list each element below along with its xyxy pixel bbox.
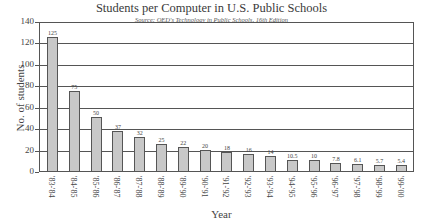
x-tick-label: '97-'98 xyxy=(352,176,362,206)
x-tick-label: '85-'86 xyxy=(91,176,101,206)
x-tick-text: '98-'99 xyxy=(374,176,383,198)
bar-value-label: 14 xyxy=(259,149,283,155)
x-tick-label: '91-'92 xyxy=(221,176,231,206)
x-tick-label: '87-'88 xyxy=(134,176,144,206)
x-tick-label: '93-'94 xyxy=(265,176,275,206)
x-tick-text: '92-'93 xyxy=(243,176,252,198)
gridline xyxy=(40,86,413,87)
x-tick-text: '90-'91 xyxy=(200,176,209,198)
x-tick-label: '96-'97 xyxy=(330,176,340,206)
x-tick-label: '89-'90 xyxy=(178,176,188,206)
x-tick-text: '97-'98 xyxy=(352,176,361,198)
y-tick-label: 20 xyxy=(0,145,34,155)
x-tick-label: '99-'00 xyxy=(396,176,406,206)
y-tick-label: 120 xyxy=(0,37,34,47)
bar xyxy=(200,150,211,171)
x-tick-text: '89-'90 xyxy=(178,176,187,198)
x-tick-text: '86-'87 xyxy=(112,176,121,198)
bar xyxy=(330,163,341,171)
gridline xyxy=(40,108,413,109)
y-tick-label: 40 xyxy=(0,123,34,133)
plot-area: 1257550373225222018161410.5107.86.15.75.… xyxy=(39,22,414,172)
y-tick-mark xyxy=(35,172,39,173)
y-tick-label: 140 xyxy=(0,16,34,26)
bar xyxy=(309,160,320,171)
bar-value-label: 25 xyxy=(150,137,174,143)
bar xyxy=(134,137,145,171)
bar xyxy=(91,117,102,171)
x-tick-text: '88-'89 xyxy=(156,176,165,198)
bar-value-label: 7.8 xyxy=(324,156,348,162)
bar xyxy=(221,152,232,171)
x-tick-text: '91-'92 xyxy=(221,176,230,198)
bar-value-label: 18 xyxy=(215,145,239,151)
bar-value-label: 75 xyxy=(62,84,86,90)
x-tick-text: '94-'95 xyxy=(287,176,296,198)
x-tick-text: '99-'00 xyxy=(396,176,405,198)
y-tick-label: 80 xyxy=(0,80,34,90)
bar-value-label: 32 xyxy=(128,130,152,136)
x-tick-label: '86-'87 xyxy=(112,176,122,206)
x-tick-text: '85-'86 xyxy=(91,176,100,198)
x-tick-label: '90-'91 xyxy=(200,176,210,206)
chart-title: Students per Computer in U.S. Public Sch… xyxy=(0,1,423,16)
bar-value-label: 5.7 xyxy=(368,158,392,164)
x-axis-label: Year xyxy=(0,208,423,220)
y-tick-label: 60 xyxy=(0,102,34,112)
x-tick-label: '94-'95 xyxy=(287,176,297,206)
bar-value-label: 125 xyxy=(41,30,65,36)
bar xyxy=(156,144,167,171)
bar xyxy=(69,91,80,171)
bar-value-label: 10.5 xyxy=(280,153,304,159)
bar-value-label: 6.1 xyxy=(346,157,370,163)
bar-value-label: 22 xyxy=(171,140,195,146)
bar xyxy=(178,147,189,171)
y-tick-label: 0 xyxy=(0,166,34,176)
x-tick-label: '88-'89 xyxy=(156,176,166,206)
x-tick-label: '83-'84 xyxy=(47,176,57,206)
x-tick-label: '95-'96 xyxy=(309,176,319,206)
x-tick-label: '98-'99 xyxy=(374,176,384,206)
bar-value-label: 10 xyxy=(302,153,326,159)
gridline xyxy=(40,43,413,44)
bar-value-label: 5.4 xyxy=(389,158,413,164)
bar-value-label: 50 xyxy=(84,110,108,116)
bar-value-label: 16 xyxy=(237,147,261,153)
bar-value-label: 20 xyxy=(193,143,217,149)
x-tick-text: '87-'88 xyxy=(134,176,143,198)
bar-value-label: 37 xyxy=(106,124,130,130)
x-tick-label: '92-'93 xyxy=(243,176,253,206)
x-tick-text: '83-'84 xyxy=(47,176,56,198)
bar xyxy=(265,156,276,171)
x-tick-text: '96-'97 xyxy=(330,176,339,198)
bar xyxy=(287,160,298,171)
bar xyxy=(112,131,123,171)
x-tick-text: '84-'85 xyxy=(69,176,78,198)
bar xyxy=(47,37,58,171)
x-tick-text: '93-'94 xyxy=(265,176,274,198)
bar xyxy=(352,164,363,171)
y-tick-label: 100 xyxy=(0,59,34,69)
bar xyxy=(243,154,254,171)
x-tick-text: '95-'96 xyxy=(309,176,318,198)
x-tick-label: '84-'85 xyxy=(69,176,79,206)
bar xyxy=(396,165,407,171)
bar xyxy=(374,165,385,171)
gridline xyxy=(40,65,413,66)
